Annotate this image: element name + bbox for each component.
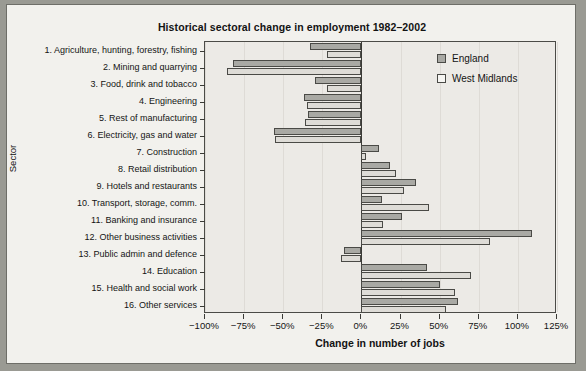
- bar-england: [310, 43, 362, 50]
- bar-england: [361, 162, 389, 169]
- y-axis-tick-mark: [200, 221, 205, 222]
- bar-england: [315, 77, 362, 84]
- legend-item-west-midlands: West Midlands: [437, 73, 547, 84]
- x-axis-tick-mark: [517, 314, 518, 319]
- y-axis-tick-label: 9. Hotels and restaurants: [96, 181, 197, 191]
- bar-england: [233, 60, 361, 67]
- y-axis-tick-mark: [200, 136, 205, 137]
- bar-west-midlands: [327, 51, 361, 58]
- bar-england: [274, 128, 362, 135]
- y-axis-tick-mark: [200, 102, 205, 103]
- x-axis-tick-mark: [360, 314, 361, 319]
- bar-west-midlands: [361, 170, 395, 177]
- y-axis-tick-label: 1. Agriculture, hunting, forestry, fishi…: [45, 45, 197, 55]
- x-axis-tick-label: 0%: [354, 320, 368, 331]
- x-axis-tick-label: 50%: [429, 320, 448, 331]
- x-axis-tick-label: −75%: [231, 320, 256, 331]
- y-axis-tick-label: 13. Public admin and defence: [78, 249, 197, 259]
- bar-west-midlands: [327, 85, 361, 92]
- bar-england: [361, 196, 381, 203]
- y-axis-tick-label: 11. Banking and insurance: [91, 215, 197, 225]
- bar-west-midlands: [227, 68, 362, 75]
- y-axis-tick-label: 8. Retail distribution: [118, 164, 197, 174]
- legend-swatch-west-midlands-icon: [437, 74, 446, 83]
- y-axis-tick-mark: [200, 85, 205, 86]
- gridline-vertical: [557, 42, 558, 312]
- bar-west-midlands: [305, 119, 361, 126]
- y-axis-tick-mark: [200, 238, 205, 239]
- y-axis-tick-mark: [200, 187, 205, 188]
- bar-england: [361, 145, 378, 152]
- x-axis-tick-mark: [204, 314, 205, 319]
- bar-england: [304, 94, 362, 101]
- bar-west-midlands: [361, 289, 455, 296]
- x-axis-tick-label: 100%: [505, 320, 529, 331]
- y-axis-tick-mark: [200, 119, 205, 120]
- bar-west-midlands: [361, 238, 489, 245]
- y-axis-tick-label: 7. Construction: [136, 147, 197, 157]
- y-axis-tick-mark: [200, 153, 205, 154]
- x-axis-tick-mark: [243, 314, 244, 319]
- y-axis-tick-mark: [200, 289, 205, 290]
- bar-england: [361, 298, 458, 305]
- legend-item-england: England: [437, 53, 547, 64]
- y-axis-tick-mark: [200, 204, 205, 205]
- gridline-vertical: [283, 42, 284, 312]
- y-axis-tick-label: 4. Engineering: [139, 96, 197, 106]
- x-axis-tick-label: 25%: [390, 320, 409, 331]
- bar-england: [344, 247, 361, 254]
- bar-england: [361, 281, 439, 288]
- y-axis-tick-labels: 1. Agriculture, hunting, forestry, fishi…: [29, 41, 201, 313]
- bar-west-midlands: [361, 221, 383, 228]
- x-axis-tick-mark: [400, 314, 401, 319]
- y-axis-tick-mark: [200, 272, 205, 273]
- y-axis-title: Sector: [7, 145, 18, 172]
- y-axis-tick-mark: [200, 68, 205, 69]
- bar-england: [361, 264, 427, 271]
- x-axis-tick-mark: [478, 314, 479, 319]
- y-axis-tick-mark: [200, 306, 205, 307]
- bar-england: [361, 213, 402, 220]
- y-axis-tick-mark: [200, 51, 205, 52]
- x-axis-tick-mark: [321, 314, 322, 319]
- y-axis-tick-label: 6. Electricity, gas and water: [88, 130, 197, 140]
- x-axis-tick-mark: [556, 314, 557, 319]
- x-axis-tick-label: −50%: [270, 320, 295, 331]
- bar-west-midlands: [307, 102, 362, 109]
- x-axis-tick-label: 75%: [468, 320, 487, 331]
- x-axis-tick-label: 125%: [544, 320, 568, 331]
- y-axis-tick-label: 16. Other services: [124, 300, 197, 310]
- chart-figure: Historical sectoral change in employment…: [6, 4, 576, 364]
- x-axis-tick-label: −25%: [309, 320, 334, 331]
- y-axis-tick-mark: [200, 255, 205, 256]
- legend-swatch-england-icon: [437, 54, 446, 63]
- bar-west-midlands: [275, 136, 361, 143]
- y-axis-tick-label: 15. Health and social work: [91, 283, 197, 293]
- y-axis-tick-label: 3. Food, drink and tobacco: [90, 79, 197, 89]
- x-axis-tick-mark: [439, 314, 440, 319]
- y-axis-tick-mark: [200, 170, 205, 171]
- y-axis-tick-label: 2. Mining and quarrying: [103, 62, 197, 72]
- y-axis-tick-label: 14. Education: [142, 266, 197, 276]
- legend-label-england: England: [452, 53, 489, 64]
- bar-england: [361, 179, 416, 186]
- bar-west-midlands: [361, 204, 428, 211]
- bar-west-midlands: [361, 153, 366, 160]
- bar-west-midlands: [361, 306, 445, 313]
- x-axis-tick-label: −100%: [189, 320, 219, 331]
- bar-west-midlands: [361, 187, 403, 194]
- bar-west-midlands: [361, 272, 471, 279]
- gridline-vertical: [205, 42, 206, 312]
- y-axis-tick-label: 5. Rest of manufacturing: [99, 113, 197, 123]
- y-axis-tick-label: 12. Other business activities: [84, 232, 197, 242]
- x-axis-title: Change in number of jobs: [204, 337, 556, 349]
- y-axis-tick-label: 10. Transport, storage, comm.: [77, 198, 197, 208]
- bar-west-midlands: [341, 255, 361, 262]
- bar-england: [361, 230, 532, 237]
- x-axis-ticks: −100%−75%−50%−25%0%25%50%75%100%125%: [204, 314, 556, 336]
- bar-england: [308, 111, 361, 118]
- gridline-vertical: [244, 42, 245, 312]
- x-axis-tick-mark: [282, 314, 283, 319]
- chart-title: Historical sectoral change in employment…: [7, 21, 577, 33]
- chart-legend: England West Midlands: [437, 53, 547, 93]
